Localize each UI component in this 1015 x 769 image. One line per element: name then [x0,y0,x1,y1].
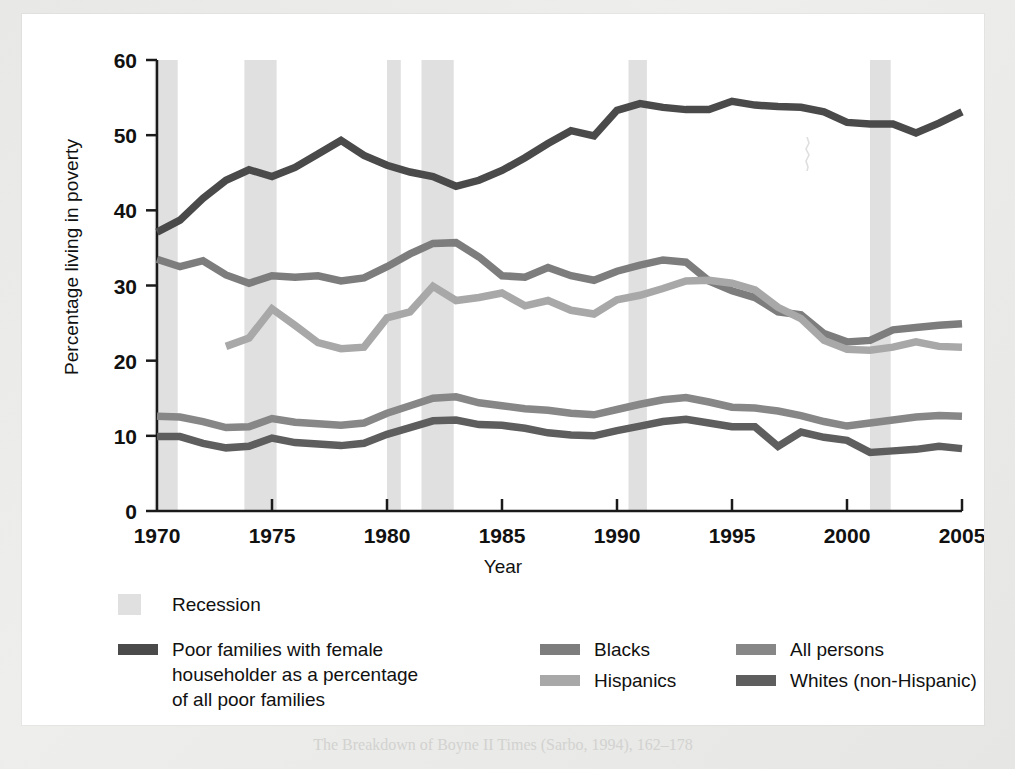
series-lines [157,101,962,452]
legend-label-hispanics: Hispanics [594,668,676,693]
x-axis-tick-label: 1970 [134,524,181,547]
legend-swatch-poor-female-householder [118,644,158,655]
figure-panel: Percentage living in poverty Year 010203… [22,14,984,725]
legend-column-2: Blacks Hispanics [540,637,730,699]
recession-band [870,60,891,511]
series-line-poor-female-householder [157,101,962,232]
series-line-blacks [157,243,962,342]
legend-entry-blacks[interactable]: Blacks [540,637,730,662]
y-axis-tick-label: 30 [114,275,137,298]
x-axis-tick-labels: 19701975198019851990199520002005 [134,524,984,547]
y-axis-tick-label: 20 [114,350,137,373]
y-axis-tick-label: 50 [114,124,137,147]
x-axis-tick-label: 2005 [939,524,984,547]
legend-swatch-all-persons [736,644,776,655]
legend-swatch-whites-non-hispanic [736,675,776,686]
legend-entry-poor-female-householder[interactable]: Poor families with female householder as… [118,637,538,712]
legend-entry-recession[interactable]: Recession [118,592,261,617]
legend-entry-whites-non-hispanic[interactable]: Whites (non-Hispanic) [736,668,1015,693]
legend-label-whites-non-hispanic: Whites (non-Hispanic) [790,668,977,693]
x-axis-tick-label: 1985 [479,524,526,547]
x-axis-tick-label: 1990 [594,524,641,547]
legend-entry-all-persons[interactable]: All persons [736,637,1015,662]
legend-entry-hispanics[interactable]: Hispanics [540,668,730,693]
x-axis-ticks [272,499,962,511]
y-axis-tick-label: 60 [114,49,137,72]
y-axis-tick-label: 0 [125,500,137,523]
legend-label-recession: Recession [172,592,261,617]
y-axis-tick-label: 40 [114,199,137,222]
recession-band [629,60,647,511]
legend-label-poor-female-householder: Poor families with female householder as… [172,637,418,712]
recession-swatch [118,594,141,615]
y-axis-tick-label: 10 [114,425,137,448]
recession-band [387,60,401,511]
x-axis-tick-label: 2000 [824,524,871,547]
legend: Recession Poor families with female hous… [118,592,968,712]
series-line-all-persons [157,397,962,428]
legend-swatch-blacks [540,644,580,655]
x-axis-tick-label: 1995 [709,524,756,547]
x-axis-tick-label: 1975 [249,524,296,547]
figure-caption: The Breakdown of Boyne II Times (Sarbo, … [22,736,984,754]
legend-column-1: Poor families with female householder as… [118,637,538,718]
y-axis-tick-labels: 0102030405060 [114,49,137,523]
legend-label-all-persons: All persons [790,637,884,662]
legend-label-blacks: Blacks [594,637,650,662]
legend-swatch-hispanics [540,675,580,686]
line-chart: 0102030405060 19701975198019851990199520… [22,14,984,574]
legend-column-3: All persons Whites (non-Hispanic) [736,637,1015,699]
x-axis-tick-label: 1980 [364,524,411,547]
